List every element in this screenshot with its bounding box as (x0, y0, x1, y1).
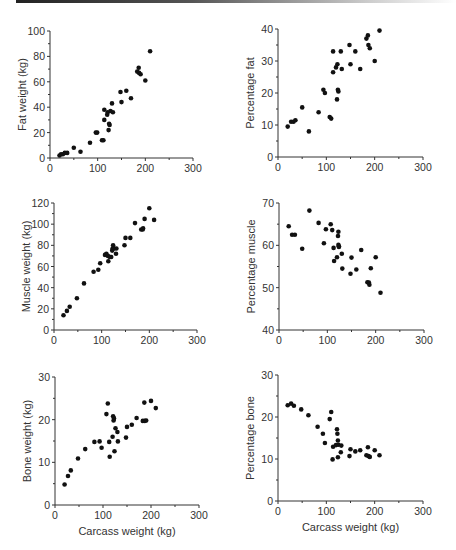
data-point (98, 261, 103, 266)
x-tick-label: 0 (51, 334, 57, 346)
data-point (123, 236, 128, 241)
data-point (133, 221, 138, 226)
data-point (124, 435, 129, 440)
data-point (340, 67, 345, 72)
y-tick-label: 0 (44, 499, 50, 511)
data-point (330, 457, 335, 462)
x-tick-label: 0 (47, 162, 53, 174)
data-point (336, 438, 341, 443)
y-tick-label: 20 (261, 411, 273, 423)
y-tick-label: 80 (33, 50, 45, 62)
data-point (366, 33, 371, 38)
data-point (358, 448, 363, 453)
x-tick-label: 300 (414, 161, 432, 173)
data-point (109, 255, 114, 260)
data-point (83, 447, 88, 452)
x-tick-label: 100 (94, 509, 112, 521)
data-point (353, 49, 358, 54)
y-tick-label: 20 (33, 127, 45, 139)
data-point (377, 453, 382, 458)
data-point (335, 97, 340, 102)
data-point (369, 266, 374, 271)
data-point (92, 440, 97, 445)
x-tick-label: 200 (142, 509, 160, 521)
data-point (69, 468, 74, 473)
y-tick-label: 0 (267, 495, 273, 507)
x-tick-label: 100 (89, 162, 107, 174)
data-point (101, 138, 106, 143)
panel-percentage-fat: 0102030400100200300Percentage fat (244, 23, 432, 173)
y-tick-label: 70 (262, 197, 274, 209)
data-point (340, 252, 345, 257)
panel-percentage-muscle: 405060700100200300Percentage muscle (245, 197, 433, 346)
data-point (307, 129, 312, 134)
data-point (62, 482, 67, 487)
data-point (306, 413, 311, 418)
data-point (368, 455, 373, 460)
x-tick-label: 0 (276, 334, 282, 346)
y-tick-label: 60 (262, 239, 274, 251)
data-point (106, 128, 111, 133)
y-tick-label: 20 (37, 303, 49, 315)
data-point (339, 49, 344, 54)
y-tick-label: 100 (27, 25, 45, 37)
data-point (328, 222, 333, 227)
x-tick-label: 0 (275, 505, 281, 517)
x-tick-label: 100 (318, 161, 336, 173)
panel-percentage-bone: 01020300100200300Percentage boneCarcass … (244, 369, 432, 533)
x-axis-title: Carcass weight (kg) (302, 521, 399, 533)
data-point (114, 252, 119, 257)
x-tick-label: 300 (190, 509, 208, 521)
data-point (349, 255, 354, 260)
data-point (143, 78, 148, 83)
y-axis-title: Muscle weight (kg) (20, 221, 32, 313)
data-point (67, 304, 72, 309)
data-point (354, 267, 359, 272)
x-tick-label: 200 (367, 334, 385, 346)
data-point (78, 149, 83, 154)
x-tick-label: 200 (366, 161, 384, 173)
data-point (323, 91, 328, 96)
data-point (340, 266, 345, 271)
y-tick-label: 80 (37, 239, 49, 251)
y-tick-label: 40 (261, 23, 273, 35)
y-axis-title: Percentage fat (244, 57, 256, 129)
data-point (112, 416, 117, 421)
y-axis-title: Bone weight (kg) (21, 400, 33, 483)
data-point (106, 401, 111, 406)
data-point (373, 255, 378, 260)
x-tick-label: 0 (275, 161, 281, 173)
data-point (329, 116, 334, 121)
data-point (115, 430, 120, 435)
y-tick-label: 10 (38, 456, 50, 468)
y-tick-label: 10 (261, 119, 273, 131)
data-point (337, 245, 342, 250)
data-point (122, 243, 127, 248)
data-point (348, 447, 353, 452)
data-point (144, 418, 149, 423)
data-point (378, 290, 383, 295)
y-tick-label: 0 (43, 324, 49, 336)
y-tick-label: 20 (38, 414, 50, 426)
panel-fat-weight: 0204060801000100200300Fat weight (kg) (16, 25, 202, 174)
data-point (347, 43, 352, 48)
data-point (119, 100, 124, 105)
data-point (97, 439, 102, 444)
data-point (316, 110, 321, 115)
data-point (339, 443, 344, 448)
y-tick-label: 50 (262, 282, 274, 294)
y-tick-label: 30 (38, 371, 50, 383)
data-point (339, 450, 344, 455)
data-point (114, 246, 119, 251)
data-point (377, 28, 382, 33)
data-point (65, 309, 70, 314)
data-point (332, 259, 337, 264)
x-tick-label: 300 (415, 334, 433, 346)
data-point (316, 221, 321, 226)
data-point (129, 96, 134, 101)
data-point (148, 49, 153, 54)
y-tick-label: 0 (39, 152, 45, 164)
data-point (335, 255, 340, 260)
data-point (106, 259, 111, 264)
data-point (348, 62, 353, 67)
